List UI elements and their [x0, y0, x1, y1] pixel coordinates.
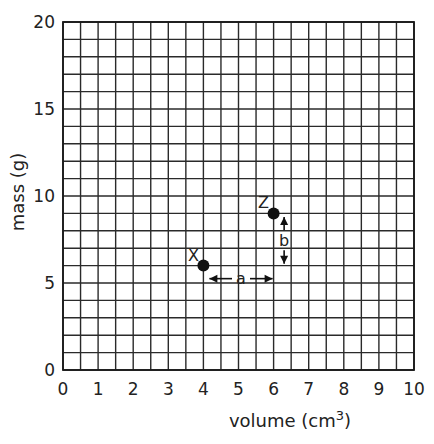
x-tick-label: 5 — [233, 379, 244, 399]
x-axis-label: volume (cm3) — [229, 408, 351, 431]
x-tick-label: 10 — [403, 379, 425, 399]
x-tick-label: 4 — [198, 379, 209, 399]
y-tick-label: 5 — [44, 273, 55, 293]
annotation-label-b: b — [279, 231, 289, 250]
data-points: XZ — [188, 193, 280, 271]
x-tick-label: 0 — [58, 379, 69, 399]
arrowhead-icon — [265, 275, 273, 283]
y-tick-label: 20 — [33, 12, 55, 32]
data-point-z — [268, 207, 280, 219]
annotation-label-a: a — [236, 269, 246, 288]
point-label-z: Z — [258, 193, 269, 212]
x-axis-ticks: 012345678910 — [58, 379, 425, 399]
arrowhead-icon — [280, 256, 288, 264]
point-label-x: X — [188, 246, 199, 265]
x-tick-label: 3 — [163, 379, 174, 399]
mass-volume-chart: 012345678910 05101520 volume (cm3) mass … — [0, 0, 434, 444]
arrowhead-icon — [209, 275, 217, 283]
x-tick-label: 8 — [338, 379, 349, 399]
x-tick-label: 6 — [268, 379, 279, 399]
x-tick-label: 1 — [93, 379, 104, 399]
arrowhead-icon — [280, 217, 288, 225]
data-point-x — [197, 260, 209, 272]
chart-grid — [63, 22, 414, 370]
x-tick-label: 7 — [303, 379, 314, 399]
y-axis-label: mass (g) — [7, 153, 28, 232]
x-tick-label: 2 — [128, 379, 139, 399]
y-tick-label: 0 — [44, 360, 55, 380]
y-tick-label: 15 — [33, 99, 55, 119]
y-tick-label: 10 — [33, 186, 55, 206]
x-tick-label: 9 — [373, 379, 384, 399]
y-axis-ticks: 05101520 — [33, 12, 55, 380]
